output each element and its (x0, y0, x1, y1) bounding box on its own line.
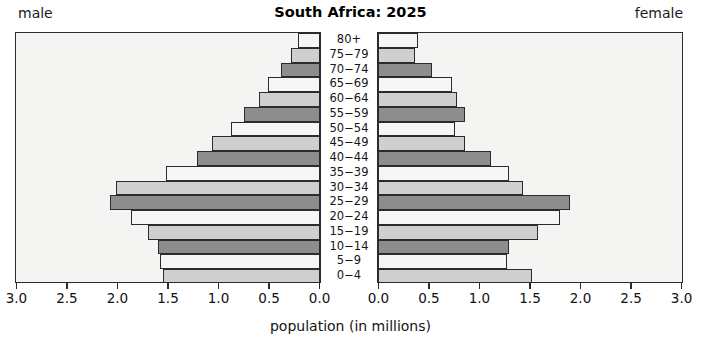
bar-male-35−39 (166, 166, 320, 181)
tick-label-male-0.5: 0.5 (249, 290, 289, 306)
bar-female-35−39 (378, 166, 509, 181)
bar-male-15−19 (148, 225, 320, 240)
bar-female-80+ (378, 33, 418, 48)
chart-title: South Africa: 2025 (0, 4, 701, 20)
population-pyramid-chart: male South Africa: 2025 female 80+75−797… (0, 0, 701, 360)
bar-male-50−54 (231, 122, 320, 137)
bar-male-45−49 (212, 136, 320, 151)
tick-male-3.0 (16, 283, 17, 289)
bar-female-65−69 (378, 77, 452, 92)
bar-male-60−64 (259, 92, 320, 107)
tick-label-male-2.0: 2.0 (97, 290, 137, 306)
bar-female-70−74 (378, 63, 432, 78)
tick-female-2.5 (630, 283, 631, 289)
age-label-60−64: 60−64 (321, 91, 377, 106)
bar-female-0−4 (378, 269, 532, 283)
bar-male-40−44 (197, 151, 320, 166)
tick-male-2.0 (117, 283, 118, 289)
age-label-30−34: 30−34 (321, 180, 377, 195)
age-label-15−19: 15−19 (321, 224, 377, 239)
tick-label-female-0.0: 0.0 (358, 290, 398, 306)
tick-male-2.5 (66, 283, 67, 289)
age-group-labels: 80+75−7970−7465−6960−6455−5950−5445−4940… (321, 32, 377, 283)
bar-female-40−44 (378, 151, 491, 166)
bar-male-5−9 (160, 254, 320, 269)
bar-female-15−19 (378, 225, 538, 240)
age-label-80+: 80+ (321, 32, 377, 47)
bar-male-20−24 (131, 210, 320, 225)
bar-female-10−14 (378, 240, 509, 255)
age-label-10−14: 10−14 (321, 239, 377, 254)
bar-male-0−4 (163, 269, 320, 283)
tick-label-female-1.5: 1.5 (510, 290, 550, 306)
tick-male-0.5 (268, 283, 269, 289)
bar-male-80+ (298, 33, 320, 48)
male-bars-panel (15, 32, 321, 283)
tick-label-male-0.0: 0.0 (300, 290, 340, 306)
bar-female-60−64 (378, 92, 457, 107)
tick-male-1.5 (167, 283, 168, 289)
age-label-45−49: 45−49 (321, 135, 377, 150)
bar-male-30−34 (116, 181, 320, 196)
bar-male-75−79 (291, 48, 320, 63)
bar-male-10−14 (158, 240, 320, 255)
tick-female-0.0 (378, 283, 379, 289)
age-label-70−74: 70−74 (321, 62, 377, 77)
bar-female-5−9 (378, 254, 507, 269)
tick-label-female-3.0: 3.0 (662, 290, 701, 306)
age-label-0−4: 0−4 (321, 268, 377, 283)
tick-male-0.0 (319, 283, 320, 289)
bar-female-20−24 (378, 210, 560, 225)
bar-female-25−29 (378, 195, 570, 210)
bar-male-55−59 (244, 107, 320, 122)
tick-label-female-0.5: 0.5 (409, 290, 449, 306)
female-side-label: female (635, 5, 683, 21)
tick-female-2.0 (580, 283, 581, 289)
tick-female-0.5 (428, 283, 429, 289)
bar-female-55−59 (378, 107, 465, 122)
bar-male-65−69 (268, 77, 320, 92)
tick-label-female-2.0: 2.0 (561, 290, 601, 306)
bar-female-50−54 (378, 122, 455, 137)
age-label-55−59: 55−59 (321, 106, 377, 121)
age-label-20−24: 20−24 (321, 209, 377, 224)
age-label-35−39: 35−39 (321, 165, 377, 180)
tick-label-male-1.0: 1.0 (199, 290, 239, 306)
tick-label-male-2.5: 2.5 (47, 290, 87, 306)
tick-male-1.0 (218, 283, 219, 289)
tick-female-3.0 (681, 283, 682, 289)
tick-label-female-1.0: 1.0 (459, 290, 499, 306)
bar-male-70−74 (281, 63, 320, 78)
x-axis-title: population (in millions) (0, 318, 701, 334)
tick-female-1.0 (479, 283, 480, 289)
tick-label-female-2.5: 2.5 (611, 290, 651, 306)
female-bars-panel (377, 32, 683, 283)
age-label-50−54: 50−54 (321, 121, 377, 136)
tick-label-male-3.0: 3.0 (0, 290, 36, 306)
age-label-40−44: 40−44 (321, 150, 377, 165)
age-label-5−9: 5−9 (321, 253, 377, 268)
tick-female-1.5 (529, 283, 530, 289)
age-label-65−69: 65−69 (321, 76, 377, 91)
age-label-25−29: 25−29 (321, 194, 377, 209)
tick-label-male-1.5: 1.5 (148, 290, 188, 306)
bar-female-30−34 (378, 181, 523, 196)
bar-female-75−79 (378, 48, 415, 63)
age-label-75−79: 75−79 (321, 47, 377, 62)
bar-female-45−49 (378, 136, 465, 151)
bar-male-25−29 (110, 195, 320, 210)
